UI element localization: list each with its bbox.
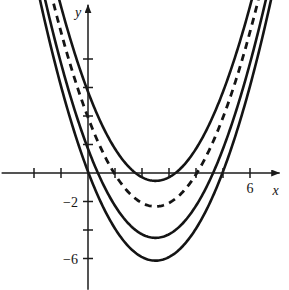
- parabola-family-figure: 6−2−6xy: [0, 0, 289, 290]
- y-tick-label: −2: [63, 195, 78, 210]
- x-axis-label: x: [272, 183, 280, 198]
- curves-layer: [22, 0, 288, 261]
- figure-container: 6−2−6xy: [0, 0, 289, 290]
- parabola-curve-curve-4-lower: [22, 0, 288, 261]
- y-axis-label: y: [73, 5, 82, 20]
- x-tick-label: 6: [247, 181, 254, 196]
- y-tick-label: −6: [63, 252, 78, 267]
- ticks-layer: [34, 59, 250, 259]
